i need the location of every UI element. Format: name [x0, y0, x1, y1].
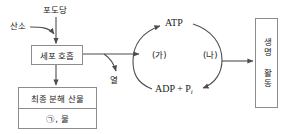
cellular-respiration-box: 세포 호흡 — [31, 45, 83, 65]
final-products-contents-label: ㉠, 물 — [46, 112, 68, 124]
final-products-box: 최종 분해 산물 ㉠, 물 — [18, 87, 97, 129]
cycle-step-a-label: (가) — [152, 51, 167, 60]
atp-label: ATP — [165, 18, 183, 28]
glucose-label: 포도당 — [43, 6, 67, 15]
adp-pi-label: ADP + Pi — [155, 84, 193, 96]
final-products-header-row: 최종 분해 산물 — [19, 88, 96, 109]
final-products-contents-row: ㉠, 물 — [19, 109, 96, 129]
arrow-heat-release — [104, 54, 116, 71]
life-activity-box: 생명 활동 — [255, 18, 278, 108]
cellular-respiration-label: 세포 호흡 — [40, 49, 75, 61]
diagram-canvas: 포도당 산소 세포 호흡 열 최종 분해 산물 ㉠, 물 ATP ADP + P… — [0, 0, 287, 134]
life-activity-label: 생명 활동 — [261, 38, 273, 89]
oxygen-label: 산소 — [10, 22, 26, 31]
arrow-oxygen-to-respiration — [30, 27, 54, 34]
adp-pi-subscript: i — [191, 88, 193, 96]
heat-label: 열 — [110, 76, 118, 85]
adp-pi-main-text: ADP + P — [155, 83, 191, 94]
final-products-header-label: 최종 분해 산물 — [31, 92, 84, 104]
cycle-step-b-label: (나) — [203, 51, 218, 60]
